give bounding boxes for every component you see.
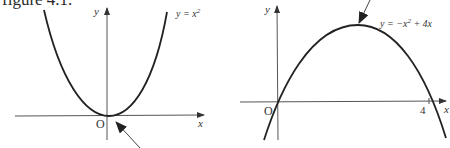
left-equation-label: y = x2 [175,7,201,19]
right-x-axis [240,101,446,102]
left-parabola [44,10,167,116]
left-y-label: y [93,5,99,17]
figure-svg: y x O y = x2 y x O 4 y = −x2 + 4x [0,0,450,148]
right-x-label: x [443,103,449,115]
right-parabola [264,25,446,140]
left-graph: y x O y = x2 [15,5,204,148]
right-graph: y x O 4 y = −x2 + 4x [240,0,449,140]
right-equation-label: y = −x2 + 4x [379,17,433,29]
right-x-tick-label: 4 [420,104,426,116]
right-maximum-arrow [359,0,371,23]
right-y-label: y [264,3,270,15]
right-origin-label: O [264,104,273,118]
left-vertex-arrow [116,122,140,148]
left-origin-label: O [96,117,105,131]
left-x-label: x [197,117,203,129]
right-y-axis [277,6,278,140]
